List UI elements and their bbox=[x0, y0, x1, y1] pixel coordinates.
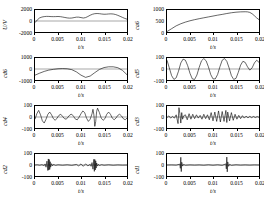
xlabel-cd2: t/s bbox=[66, 187, 96, 194]
ytick-signal-0: 2000 bbox=[3, 6, 32, 12]
xtick-cd6-4: 0.02 bbox=[117, 84, 139, 90]
ytick-ca6-0: 1000 bbox=[135, 6, 164, 12]
ytick-cd3-0: 100 bbox=[135, 102, 164, 108]
xlabel-cd6: t/s bbox=[66, 91, 96, 98]
xtick-cd4-0: 0 bbox=[23, 132, 45, 138]
xtick-cd2-1: 0.005 bbox=[47, 180, 69, 186]
xtick-cd1-0: 0 bbox=[155, 180, 177, 186]
ylabel-ca6: ca6 bbox=[133, 21, 140, 30]
xtick-signal-1: 0.005 bbox=[47, 36, 69, 42]
plot-area-cd5 bbox=[166, 57, 260, 81]
trace-cd3 bbox=[167, 106, 259, 128]
ylabel-cd6: cd6 bbox=[1, 69, 8, 78]
xtick-cd2-4: 0.02 bbox=[117, 180, 139, 186]
xtick-cd4-3: 0.015 bbox=[94, 132, 116, 138]
wavelet-decomposition-figure: 20000-2000U/V00.0050.010.0150.02t/s10005… bbox=[0, 0, 264, 209]
ytick-cd1-0: 100 bbox=[135, 150, 164, 156]
ylabel-cd4: cd4 bbox=[1, 117, 8, 126]
xtick-cd5-3: 0.015 bbox=[226, 84, 248, 90]
xlabel-cd5: t/s bbox=[198, 91, 228, 98]
xtick-cd3-1: 0.005 bbox=[179, 132, 201, 138]
xtick-cd1-1: 0.005 bbox=[179, 180, 201, 186]
ytick-cd2-0: 100 bbox=[3, 150, 32, 156]
xtick-cd3-4: 0.02 bbox=[249, 132, 264, 138]
xlabel-signal: t/s bbox=[66, 43, 96, 50]
xtick-cd3-2: 0.01 bbox=[202, 132, 224, 138]
xtick-cd1-2: 0.01 bbox=[202, 180, 224, 186]
xtick-ca6-3: 0.015 bbox=[226, 36, 248, 42]
plot-area-cd3 bbox=[166, 105, 260, 129]
ytick-cd5-0: 100 bbox=[135, 54, 164, 60]
xlabel-ca6: t/s bbox=[198, 43, 228, 50]
xtick-cd6-1: 0.005 bbox=[47, 84, 69, 90]
xtick-cd3-3: 0.015 bbox=[226, 132, 248, 138]
xtick-cd5-1: 0.005 bbox=[179, 84, 201, 90]
plot-area-cd6 bbox=[34, 57, 128, 81]
xtick-cd5-0: 0 bbox=[155, 84, 177, 90]
xlabel-cd1: t/s bbox=[198, 187, 228, 194]
trace-cd6 bbox=[35, 58, 127, 80]
xtick-cd4-2: 0.01 bbox=[70, 132, 92, 138]
plot-area-cd4 bbox=[34, 105, 128, 129]
xtick-cd6-3: 0.015 bbox=[94, 84, 116, 90]
trace-ca6 bbox=[167, 10, 259, 32]
trace-cd2 bbox=[35, 154, 127, 176]
xtick-cd1-4: 0.02 bbox=[249, 180, 264, 186]
xtick-cd1-3: 0.015 bbox=[226, 180, 248, 186]
xtick-ca6-0: 0 bbox=[155, 36, 177, 42]
xtick-cd2-0: 0 bbox=[23, 180, 45, 186]
ytick-cd4-0: 100 bbox=[3, 102, 32, 108]
ylabel-signal: U/V bbox=[1, 20, 8, 30]
xtick-cd4-1: 0.005 bbox=[47, 132, 69, 138]
ytick-cd6-0: 1000 bbox=[3, 54, 32, 60]
ylabel-cd1: cd1 bbox=[133, 165, 140, 174]
trace-signal bbox=[35, 10, 127, 32]
xtick-signal-0: 0 bbox=[23, 36, 45, 42]
xtick-ca6-2: 0.01 bbox=[202, 36, 224, 42]
ylabel-cd2: cd2 bbox=[1, 165, 8, 174]
xtick-cd6-2: 0.01 bbox=[70, 84, 92, 90]
ylabel-cd3: cd3 bbox=[133, 117, 140, 126]
plot-area-cd2 bbox=[34, 153, 128, 177]
trace-cd1 bbox=[167, 154, 259, 176]
xtick-cd5-4: 0.02 bbox=[249, 84, 264, 90]
xtick-cd5-2: 0.01 bbox=[202, 84, 224, 90]
plot-area-ca6 bbox=[166, 9, 260, 33]
xtick-cd4-4: 0.02 bbox=[117, 132, 139, 138]
plot-area-signal bbox=[34, 9, 128, 33]
ylabel-cd5: cd5 bbox=[133, 69, 140, 78]
trace-cd4 bbox=[35, 106, 127, 128]
xtick-ca6-1: 0.005 bbox=[179, 36, 201, 42]
xtick-cd2-2: 0.01 bbox=[70, 180, 92, 186]
xtick-ca6-4: 0.02 bbox=[249, 36, 264, 42]
xtick-cd6-0: 0 bbox=[23, 84, 45, 90]
xtick-signal-4: 0.02 bbox=[117, 36, 139, 42]
xtick-signal-2: 0.01 bbox=[70, 36, 92, 42]
trace-cd5 bbox=[167, 58, 259, 80]
xtick-cd2-3: 0.015 bbox=[94, 180, 116, 186]
xlabel-cd4: t/s bbox=[66, 139, 96, 146]
xtick-cd3-0: 0 bbox=[155, 132, 177, 138]
xtick-signal-3: 0.015 bbox=[94, 36, 116, 42]
plot-area-cd1 bbox=[166, 153, 260, 177]
xlabel-cd3: t/s bbox=[198, 139, 228, 146]
